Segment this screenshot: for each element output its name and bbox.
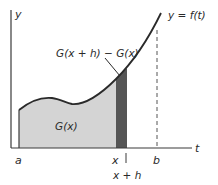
area-function-diagram: y t y = f(t) G(x + h) − G(x) G(x) a x b … <box>0 0 218 185</box>
strip-region <box>116 68 127 148</box>
curve-label: y = f(t) <box>167 9 206 21</box>
strip-label: G(x + h) − G(x) <box>56 47 139 59</box>
area-region-g-x <box>19 79 116 148</box>
tick-label-b: b <box>153 154 160 167</box>
t-axis-label: t <box>195 142 200 155</box>
tick-label-x-plus-h: x + h <box>112 169 141 181</box>
y-axis-label: y <box>14 8 22 21</box>
tick-label-a: a <box>15 154 22 167</box>
strip-pointer-line <box>105 58 120 76</box>
tick-label-x: x <box>111 154 119 167</box>
curve-f <box>19 13 161 110</box>
area-label: G(x) <box>55 120 78 132</box>
